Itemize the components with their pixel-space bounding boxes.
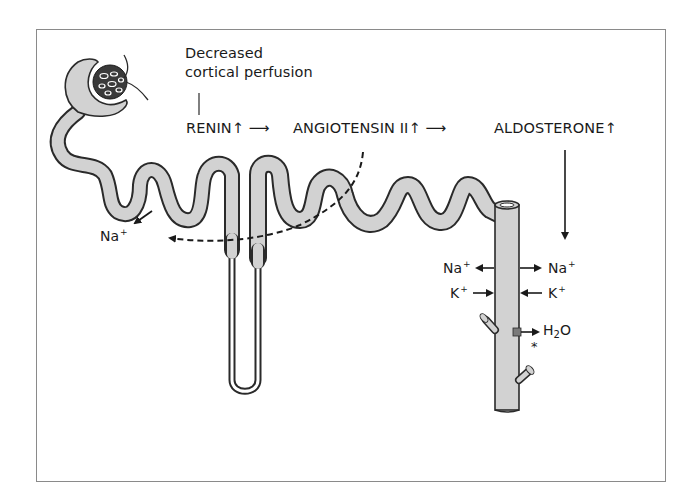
water-label: H2O — [543, 322, 571, 340]
ion-symbol: K — [450, 285, 459, 301]
nephron-illustration — [0, 0, 698, 503]
ion-charge: + — [463, 259, 471, 269]
up-arrow-icon: ↑ — [604, 120, 616, 136]
up-arrow-icon: ↑ — [408, 120, 420, 136]
right-arrow-icon: ⟶ — [425, 120, 446, 136]
proximal-na-ion: Na+ — [100, 227, 128, 244]
water-channel-icon — [513, 328, 521, 336]
ion-symbol: Na — [548, 260, 567, 276]
aldosterone-label: ALDOSTERONE — [494, 120, 604, 136]
duct-k-right: K+ — [548, 284, 566, 301]
water-h: H — [543, 322, 554, 338]
asterisk-marker: * — [531, 339, 538, 354]
duct-na-left: Na+ — [443, 259, 471, 276]
duct-na-right: Na+ — [548, 259, 576, 276]
cascade-aldosterone: ALDOSTERONE↑ — [494, 120, 617, 136]
duct-k-left: K+ — [450, 284, 468, 301]
right-arrow-icon: ⟶ — [249, 120, 270, 136]
renin-label: RENIN — [186, 120, 232, 136]
ion-symbol: Na — [443, 260, 462, 276]
water-o: O — [560, 322, 571, 338]
ion-symbol: K — [548, 285, 557, 301]
tubule — [58, 112, 500, 391]
ion-charge: + — [558, 284, 566, 294]
glomerulus — [65, 55, 148, 116]
ion-charge: + — [460, 284, 468, 294]
angiotensin-label: ANGIOTENSIN II — [293, 120, 408, 136]
cascade-angiotensin: ANGIOTENSIN II↑ ⟶ — [293, 120, 446, 136]
cascade-renin: RENIN↑ ⟶ — [186, 120, 270, 136]
up-arrow-icon: ↑ — [232, 120, 244, 136]
collecting-duct — [478, 201, 535, 412]
ion-charge: + — [568, 259, 576, 269]
trigger-label-line2: cortical perfusion — [185, 64, 313, 80]
ion-symbol: Na — [100, 228, 119, 244]
ion-charge: + — [120, 227, 128, 237]
trigger-label-line1: Decreased — [185, 45, 263, 61]
